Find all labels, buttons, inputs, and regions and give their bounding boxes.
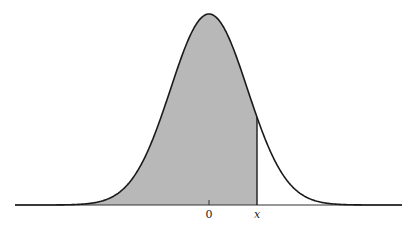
normal-curve-figure: 0 x [0, 0, 417, 228]
x-label: x [254, 208, 261, 221]
shaded-area [15, 14, 257, 205]
zero-label: 0 [206, 208, 213, 221]
